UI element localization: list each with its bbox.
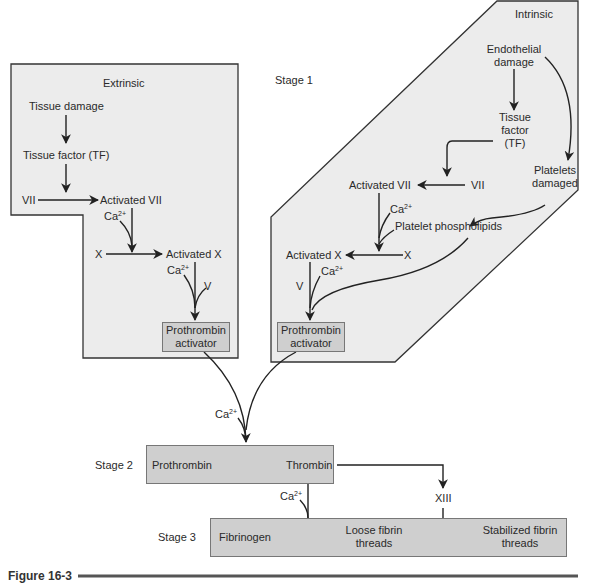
vii-label: VII (22, 194, 35, 207)
prothrombin-activator-label: Prothrombinactivator (277, 324, 345, 350)
figure-caption: Figure 16-3 (8, 569, 72, 583)
platelets-damaged-label: Plateletsdamaged (528, 164, 582, 190)
ca-label: Ca2+ (104, 210, 126, 223)
tissue-factor-label: Tissuefactor(TF) (495, 111, 535, 150)
activated-x-label: Activated X (166, 248, 222, 261)
x-label: X (95, 248, 102, 261)
intrinsic-title: Intrinsic (515, 8, 553, 21)
activated-vii-label: Activated VII (349, 179, 411, 192)
ca-label: Ca2+ (390, 203, 412, 216)
stage1-label: Stage 1 (275, 74, 313, 87)
fibrinogen-label: Fibrinogen (219, 531, 271, 544)
endothelial-damage-label: Endothelialdamage (484, 43, 544, 69)
ca-label: Ca2+ (280, 490, 302, 503)
activated-x-label: Activated X (286, 249, 342, 262)
loose-fibrin-threads-label: Loose fibrinthreads (338, 524, 410, 550)
platelet-phospholipids-label: Platelet phospholipids (395, 220, 502, 233)
prothrombin-activator-label: Prothrombinactivator (162, 324, 230, 350)
thrombin-label: Thrombin (286, 459, 332, 472)
stage2-label: Stage 2 (95, 459, 133, 472)
xiii-label: XIII (435, 492, 452, 505)
extrinsic-title: Extrinsic (103, 77, 145, 90)
v-label: V (204, 280, 211, 293)
stabilized-fibrin-threads-label: Stabilized fibrinthreads (478, 524, 562, 550)
vii-label: VII (471, 179, 484, 192)
x-label: X (404, 249, 411, 262)
stage3-label: Stage 3 (158, 531, 196, 544)
tissue-damage-label: Tissue damage (29, 100, 104, 113)
ca-label: Ca2+ (167, 264, 189, 277)
prothrombin-label: Prothrombin (152, 459, 212, 472)
ca-label: Ca2+ (321, 265, 343, 278)
activated-vii-label: Activated VII (100, 194, 162, 207)
v-label: V (296, 280, 303, 293)
ca-label: Ca2+ (215, 408, 237, 421)
tissue-factor-label: Tissue factor (TF) (23, 149, 109, 162)
